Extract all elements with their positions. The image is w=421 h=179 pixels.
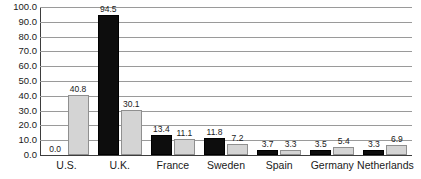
bar (121, 110, 142, 155)
x-axis-category-label: France (157, 158, 190, 172)
y-axis-tick-label: 50.0 (0, 76, 37, 86)
y-axis-tick-label: 100.0 (0, 2, 37, 12)
bar (333, 147, 354, 155)
bar (257, 150, 278, 155)
y-axis-tick-label: 10.0 (0, 135, 37, 145)
bar (363, 150, 384, 155)
bar (204, 138, 225, 155)
bar (227, 144, 248, 155)
y-axis-tick-label: 20.0 (0, 120, 37, 130)
bar-value-label: 30.1 (123, 100, 140, 109)
y-axis-tick-labels: 0.010.020.030.040.050.060.070.080.090.01… (0, 0, 37, 179)
bar-value-label: 11.8 (207, 128, 223, 137)
x-axis-category-label: U.S. (56, 158, 76, 172)
bar (68, 95, 89, 155)
bar (98, 15, 119, 155)
x-axis-category-label: Sweden (207, 158, 245, 172)
x-axis-category-labels: U.S.U.K.FranceSwedenSpainGermanyNetherla… (40, 158, 412, 179)
plot-area: 0.040.894.530.113.411.111.87.23.73.33.55… (40, 7, 412, 155)
y-axis-tick-label: 0.0 (0, 150, 37, 160)
y-axis-tick-label: 40.0 (0, 91, 37, 101)
x-axis-category-label: Netherlands (357, 158, 414, 172)
bar-value-label: 3.7 (262, 140, 274, 149)
y-axis-tick-label: 80.0 (0, 32, 37, 42)
bars-layer: 0.040.894.530.113.411.111.87.23.73.33.55… (40, 7, 412, 155)
bar (174, 139, 195, 155)
bar-value-label: 3.5 (315, 140, 327, 149)
x-axis-category-label: Spain (266, 158, 293, 172)
bar-value-label: 3.3 (368, 140, 380, 149)
bar-value-label: 11.1 (176, 129, 192, 138)
bar-value-label: 6.9 (391, 135, 403, 144)
bar-value-label: 0.0 (49, 145, 61, 154)
bar-value-label: 7.2 (232, 134, 244, 143)
y-axis-tick-label: 30.0 (0, 106, 37, 116)
bar (386, 145, 407, 155)
bar-value-label: 40.8 (70, 85, 87, 94)
y-axis-tick-label: 90.0 (0, 17, 37, 27)
y-axis-tick-label: 60.0 (0, 61, 37, 71)
bar (151, 135, 172, 155)
bar-value-label: 13.4 (153, 125, 170, 134)
x-axis-baseline (40, 155, 412, 156)
bar (310, 150, 331, 155)
bar-value-label: 3.3 (285, 140, 297, 149)
bar-value-label: 5.4 (338, 137, 350, 146)
x-axis-category-label: Germany (311, 158, 354, 172)
y-axis-tick-label: 70.0 (0, 46, 37, 56)
x-axis-category-label: U.K. (109, 158, 129, 172)
bar-chart: 0.010.020.030.040.050.060.070.080.090.01… (0, 0, 421, 179)
bar (280, 150, 301, 155)
bar-value-label: 94.5 (100, 5, 117, 14)
